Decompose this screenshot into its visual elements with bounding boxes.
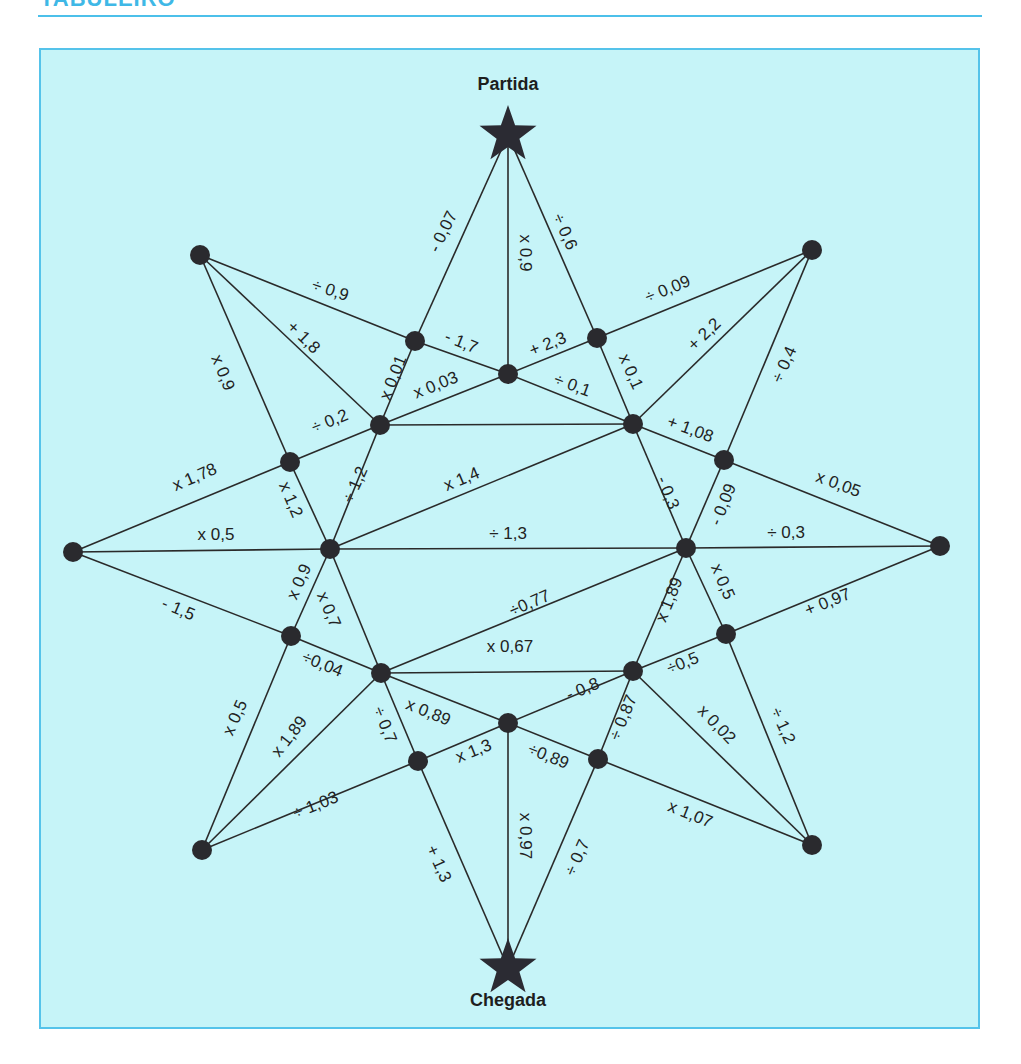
edge-b-tr — [633, 250, 812, 424]
edge-operation-label: x 0,05 — [813, 467, 863, 501]
edge-e-b — [330, 424, 633, 549]
board-node-l[interactable] — [63, 542, 83, 562]
edge-operation-label: + 1,08 — [665, 412, 716, 446]
edge-operation-label: x 0,1 — [615, 351, 647, 392]
board-node-i[interactable] — [371, 663, 391, 683]
edge-l-e — [73, 549, 330, 552]
edge-operation-label: x 1,4 — [441, 463, 482, 495]
edge-operation-label: x 0,9 — [283, 561, 315, 602]
edge-operation-label: x 1,2 — [275, 479, 307, 520]
edge-e-f — [330, 548, 686, 549]
board-node-p[interactable] — [405, 331, 425, 351]
board-node-d[interactable] — [714, 450, 734, 470]
edge-tr-d — [724, 250, 812, 460]
board-node-c[interactable] — [280, 452, 300, 472]
board-node-m[interactable] — [498, 713, 518, 733]
edge-operation-label: ÷ 0,2 — [309, 405, 351, 437]
board-node-j[interactable] — [623, 661, 643, 681]
board-node-n[interactable] — [588, 749, 608, 769]
star-path-diagram: - 0,07x 0,9÷ 0,6÷ 0,9+ 1,8x 0,9- 1,7x 0,… — [0, 0, 1021, 1064]
board-node-f[interactable] — [676, 538, 696, 558]
edge-operation-label: + 0,97 — [802, 584, 853, 620]
board-node-g[interactable] — [281, 626, 301, 646]
edge-operation-label: + 1,8 — [283, 317, 324, 357]
edge-operation-label: ÷ 0,3 — [767, 523, 805, 542]
edge-i-bl — [202, 673, 381, 850]
edge-a-b — [380, 424, 633, 425]
board-node-a[interactable] — [370, 415, 390, 435]
board-node-q[interactable] — [498, 364, 518, 384]
edge-operation-label: x 1,78 — [170, 459, 220, 495]
edge-operation-label: x 0,5 — [707, 561, 739, 602]
board-node-bl[interactable] — [192, 840, 212, 860]
edge-operation-label: x 1,89 — [652, 575, 687, 625]
edge-f-r — [686, 546, 940, 548]
board-node-r[interactable] — [930, 536, 950, 556]
edge-operation-label: ÷ 1,03 — [290, 787, 341, 822]
edge-n-br — [598, 759, 812, 845]
edge-operation-label: - 0,3 — [653, 473, 683, 512]
edge-operation-label: + 2,3 — [526, 328, 569, 360]
edge-operation-label: x 0,5 — [219, 697, 251, 738]
board-node-br[interactable] — [802, 835, 822, 855]
edge-operation-label: x 0,03 — [411, 368, 461, 403]
board-node-k[interactable] — [408, 751, 428, 771]
edge-j-br — [633, 671, 812, 845]
edge-operation-label: x 0,67 — [487, 637, 533, 656]
edge-operation-label: x 0,89 — [403, 695, 453, 730]
edge-operation-label: ÷ 0,87 — [605, 692, 640, 743]
edge-labels-layer: - 0,07x 0,9÷ 0,6÷ 0,9+ 1,8x 0,9- 1,7x 0,… — [159, 208, 863, 885]
edge-l-g — [73, 552, 291, 636]
board-node-tl[interactable] — [190, 245, 210, 265]
edge-operation-label: + 1,3 — [422, 842, 455, 885]
edge-operation-label: ÷ 0,1 — [551, 370, 593, 401]
board-node-h[interactable] — [716, 624, 736, 644]
edge-operation-label: ÷ 0,4 — [768, 344, 801, 386]
start-label: Partida — [477, 74, 539, 94]
edge-operation-label: ÷0,77 — [506, 586, 552, 620]
edge-operation-label: x 1,07 — [665, 797, 715, 832]
edge-operation-label: x 0,97 — [516, 813, 535, 859]
edge-operation-label: x 1,3 — [453, 735, 494, 766]
edge-operation-label: x 0,9 — [516, 235, 535, 272]
board-node-b[interactable] — [623, 414, 643, 434]
end-star-icon[interactable] — [480, 938, 537, 992]
edge-h-br — [726, 634, 812, 845]
edge-operation-label: ÷ 1,3 — [489, 524, 527, 543]
edge-operation-label: + 2,2 — [684, 314, 725, 354]
edge-operation-label: x 0,5 — [198, 525, 235, 544]
edge-operation-label: - 0,07 — [425, 208, 461, 255]
end-label: Chegada — [470, 990, 547, 1010]
board-node-e[interactable] — [320, 539, 340, 559]
edge-i-j — [381, 671, 633, 673]
board-node-tr[interactable] — [802, 240, 822, 260]
edge-operation-label: ÷ 1,2 — [339, 464, 372, 506]
edge-operation-label: x 0,7 — [313, 589, 345, 630]
edge-operation-label: x 0,02 — [694, 701, 740, 748]
edge-operation-label: x 0,9 — [207, 352, 238, 393]
edge-operation-label: ÷0,04 — [299, 647, 345, 681]
edge-operation-label: ÷ 1,2 — [767, 705, 800, 747]
edge-operation-label: - 0,8 — [563, 674, 602, 704]
edge-operation-label: x 0,01 — [376, 353, 411, 403]
edge-operation-label: x 1,89 — [267, 712, 310, 760]
edge-operation-label: ÷0,5 — [664, 648, 702, 678]
edge-operation-label: ÷0,89 — [525, 739, 571, 773]
board-node-s[interactable] — [587, 328, 607, 348]
edge-operation-label: ÷ 0,6 — [549, 211, 582, 253]
edge-operation-label: ÷ 0,7 — [561, 837, 594, 879]
edge-tl-a — [200, 255, 380, 425]
